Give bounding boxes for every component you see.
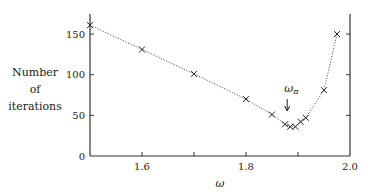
x-marker-icon — [139, 46, 145, 52]
x-tick-label: 1.6 — [134, 161, 150, 172]
x-marker-icon — [243, 96, 249, 102]
x-marker-icon — [191, 71, 197, 77]
y-tick-label: 150 — [66, 29, 85, 40]
y-tick-label: 50 — [72, 110, 85, 121]
omega-pi-annotation: ωπ — [284, 82, 299, 96]
y-tick-label: 100 — [66, 69, 85, 80]
x-marker-icon — [303, 115, 309, 121]
x-marker-icon — [334, 31, 340, 37]
x-tick-label: 2.0 — [342, 161, 358, 172]
x-marker-icon — [298, 119, 304, 125]
x-marker-icon — [269, 112, 275, 118]
y-tick-label: 0 — [79, 151, 85, 162]
data-line — [90, 25, 337, 127]
x-tick-label: 1.8 — [238, 161, 254, 172]
chart-plot-area: 0501001501.61.82.0ωωπ — [0, 0, 370, 192]
x-axis-label: ω — [216, 177, 225, 190]
x-marker-icon — [321, 87, 327, 93]
